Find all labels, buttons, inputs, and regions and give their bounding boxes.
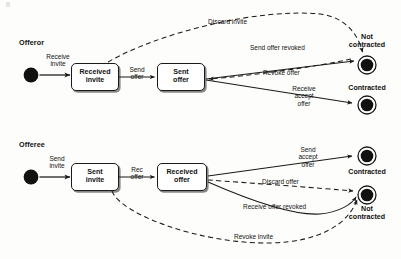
label-revoke-offer: Revoke offer [263,69,300,76]
edge-send-accept-offer [208,156,352,176]
label-rec-offer: Rec offer [122,166,152,181]
edge-receive-accept-offer [206,80,352,103]
state-sent-offer[interactable]: Sent offer [157,63,205,91]
state-received-invite[interactable]: Received invite [71,63,119,91]
label-send-offer: Send offer [122,66,152,81]
label-receive-accept-offer: Receive accept offer [284,85,324,107]
caption-offeree-contracted: Contracted [336,169,398,177]
caption-offeree-not-contracted: Not contracted [339,206,395,222]
state-received-offer[interactable]: Received offer [157,163,207,191]
label-receive-invite: Receive invite [41,53,75,68]
lane-title-offeror: Offeror [19,38,44,47]
state-sent-offer-line2: offer [171,77,191,85]
caption-offeror-not-contracted: Not contracted [339,34,395,50]
offeror-initial-state [24,68,39,83]
state-received-invite-line2: invite [77,77,112,85]
offeror-final-not-contracted [358,56,376,74]
label-receive-offer-revoked: Receive offer revoked [243,203,306,210]
label-send-accept-offer: Send accept offer [291,146,325,168]
state-sent-invite-line2: invite [84,177,107,185]
offeree-final-not-contracted [358,186,376,204]
offeree-initial-state [24,170,39,185]
caption-offeror-contracted: Contracted [336,85,398,93]
state-received-offer-line2: offer [164,177,199,185]
state-diagram: Offeror Received invite Sent offer Recei… [0,0,401,259]
label-send-offer-revoked: Send offer revoked [250,44,305,51]
lane-title-offeree: Offeree [19,140,45,149]
label-discard-offer: Discard offer [262,178,299,185]
label-discard-invite: Discard invite [208,18,247,25]
label-send-invite: Send invite [41,155,73,170]
offeror-final-contracted [358,96,376,114]
offeree-final-contracted [358,147,376,165]
label-revoke-invite: Revoke invite [234,233,273,240]
scan-artifact [6,2,10,7]
state-sent-invite[interactable]: Sent invite [71,163,119,191]
